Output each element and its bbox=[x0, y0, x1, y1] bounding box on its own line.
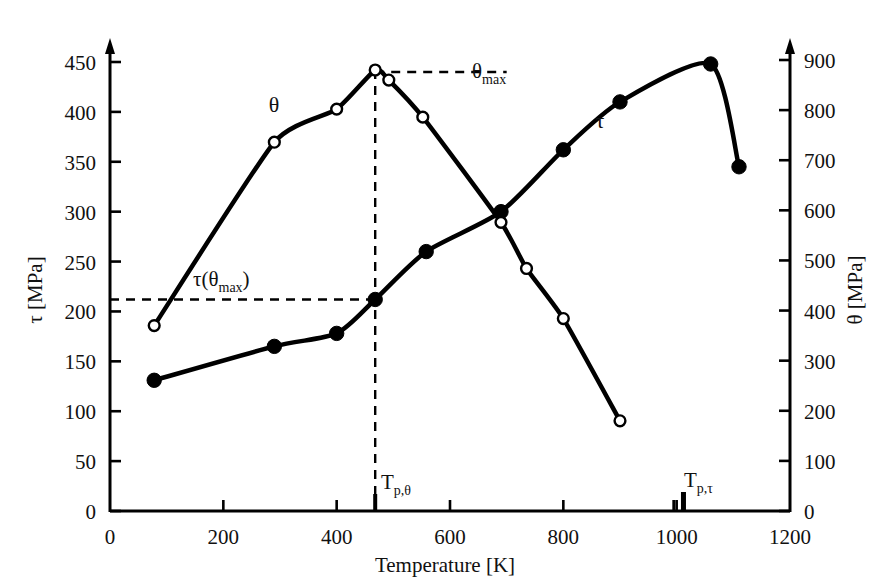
Tp-tau-subscript: p,τ bbox=[697, 481, 714, 496]
Tp-theta-base: T bbox=[381, 470, 394, 494]
left-tick-label: 350 bbox=[65, 151, 97, 175]
bottom-tick-label: 200 bbox=[208, 525, 240, 549]
theta-curve-label: θ bbox=[269, 92, 280, 117]
chart-canvas: 050100150200250300350400450 010020030040… bbox=[0, 0, 889, 587]
theta-data-point bbox=[496, 217, 507, 228]
chart-figure: 050100150200250300350400450 010020030040… bbox=[0, 0, 889, 587]
left-tick-label: 150 bbox=[65, 350, 97, 374]
tau-data-point bbox=[419, 244, 433, 258]
bottom-tick-label: 400 bbox=[321, 525, 353, 549]
right-tick-label: 200 bbox=[804, 400, 836, 424]
left-tick-label: 200 bbox=[65, 300, 97, 324]
left-tick-label: 50 bbox=[75, 450, 96, 474]
tau-data-point bbox=[329, 326, 343, 340]
left-tick-label: 100 bbox=[65, 400, 97, 424]
bottom-tick-label: 0 bbox=[105, 525, 116, 549]
right-tick-label: 300 bbox=[804, 350, 836, 374]
tau-data-point bbox=[732, 160, 746, 174]
tau-data-point bbox=[703, 57, 717, 71]
theta-max-subscript: max bbox=[482, 72, 506, 87]
x-axis-title: Temperature [K] bbox=[375, 553, 515, 577]
tau-data-point bbox=[267, 339, 281, 353]
left-tick-label: 450 bbox=[65, 51, 97, 75]
theta-data-point bbox=[331, 104, 342, 115]
theta-data-point bbox=[149, 320, 160, 331]
Tp-tau-tick-marker bbox=[681, 492, 686, 512]
left-tick-label: 300 bbox=[65, 201, 97, 225]
bottom-tick-label: 600 bbox=[434, 525, 466, 549]
right-tick-label: 400 bbox=[804, 300, 836, 324]
tau-data-point bbox=[556, 143, 570, 157]
theta-data-point bbox=[383, 75, 394, 86]
y-right-axis-title: θ [MPa] bbox=[843, 256, 867, 325]
tau-data-point bbox=[147, 373, 161, 387]
left-tick-label: 0 bbox=[86, 500, 97, 524]
theta-data-point bbox=[558, 313, 569, 324]
theta-data-point bbox=[370, 65, 381, 76]
Tp-tau-base: T bbox=[684, 468, 697, 492]
tau-curve-label: τ bbox=[596, 108, 605, 133]
theta-max-base: θ bbox=[472, 59, 482, 83]
right-tick-label: 600 bbox=[804, 199, 836, 223]
theta-data-point bbox=[269, 137, 280, 148]
tau-data-point bbox=[368, 292, 382, 306]
tau-theta-max-subscript: max bbox=[219, 280, 243, 295]
Tp-theta-subscript: p,θ bbox=[394, 483, 412, 498]
theta-data-point bbox=[521, 263, 532, 274]
right-tick-label: 100 bbox=[804, 450, 836, 474]
Tp-theta-tick-marker bbox=[373, 494, 377, 512]
right-tick-label: 700 bbox=[804, 149, 836, 173]
y-left-axis-title: τ [MPa] bbox=[23, 256, 47, 323]
figure-background bbox=[0, 0, 889, 587]
right-tick-label: 900 bbox=[804, 49, 836, 73]
tau-data-point bbox=[613, 95, 627, 109]
left-tick-label: 250 bbox=[65, 251, 97, 275]
Tp-tau-tick-marker-secondary bbox=[672, 500, 675, 512]
bottom-tick-label: 800 bbox=[548, 525, 580, 549]
bottom-tick-label: 1000 bbox=[656, 525, 698, 549]
bottom-tick-label: 1200 bbox=[769, 525, 811, 549]
right-tick-label: 800 bbox=[804, 99, 836, 123]
right-tick-label: 500 bbox=[804, 249, 836, 273]
theta-data-point bbox=[417, 112, 428, 123]
theta-data-point bbox=[615, 415, 626, 426]
right-tick-label: 0 bbox=[804, 500, 815, 524]
left-tick-label: 400 bbox=[65, 101, 97, 125]
tau-theta-max-open: τ(θ bbox=[193, 267, 219, 291]
tau-theta-max-close: ) bbox=[243, 267, 250, 291]
